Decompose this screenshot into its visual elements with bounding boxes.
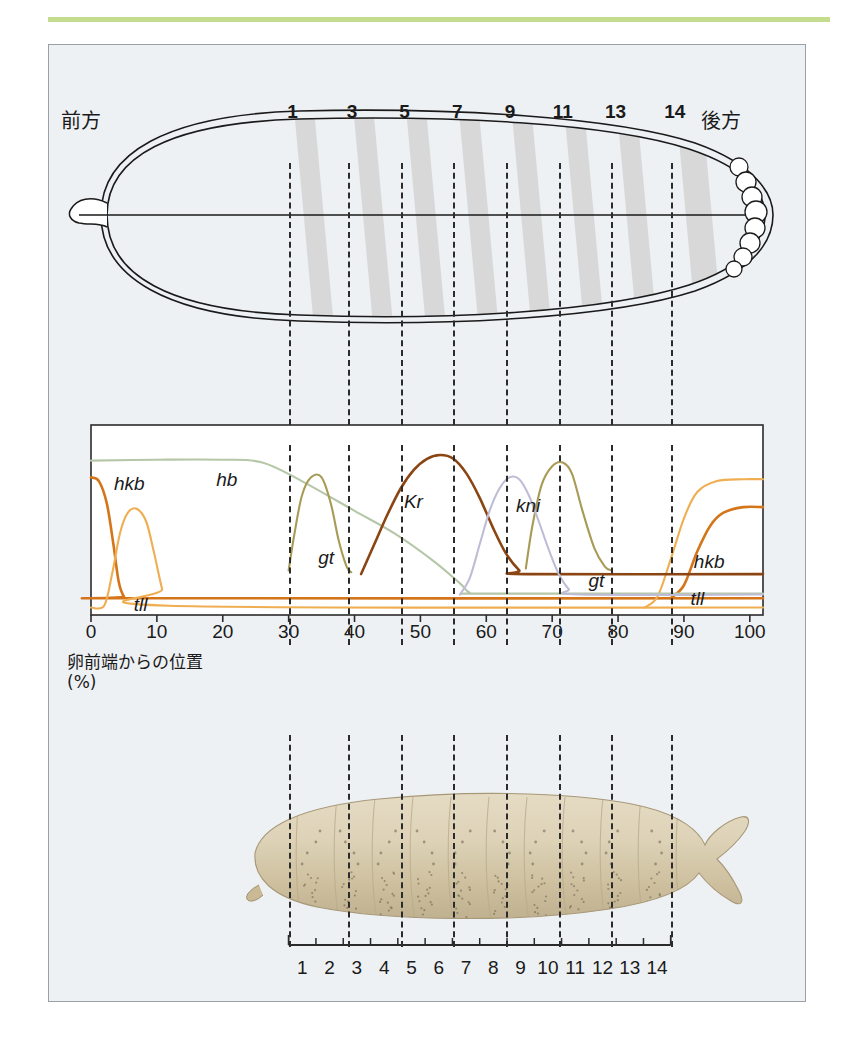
posterior-label: 後方 xyxy=(701,105,741,134)
registration-line xyxy=(559,163,561,425)
embryo-svg xyxy=(49,45,807,395)
segment-number: 5 xyxy=(406,957,417,979)
segment-number: 10 xyxy=(537,957,558,979)
registration-line xyxy=(671,445,673,645)
registration-line xyxy=(289,445,291,645)
registration-line xyxy=(671,735,673,947)
larva-panel: 1234567891011121314 xyxy=(49,735,807,1003)
anterior-label: 前方 xyxy=(61,105,101,134)
x-axis-caption-line2: (%) xyxy=(67,673,203,693)
gene-label-hb: hb xyxy=(216,469,237,491)
registration-line xyxy=(289,163,291,425)
parasegment-number: 11 xyxy=(553,101,573,123)
x-tick-label: 100 xyxy=(734,621,766,643)
registration-line xyxy=(506,163,508,425)
larva-photograph xyxy=(49,735,807,1003)
parasegment-number: 7 xyxy=(452,101,463,123)
x-tick-label: 10 xyxy=(146,621,167,643)
x-tick-label: 90 xyxy=(673,621,694,643)
registration-line xyxy=(348,735,350,947)
registration-line xyxy=(611,735,613,947)
gene-label-gt: gt xyxy=(318,547,334,569)
x-axis-caption-line1: 卵前端からの位置 xyxy=(67,653,203,673)
registration-line xyxy=(401,735,403,947)
registration-line xyxy=(453,445,455,645)
segment-number: 1 xyxy=(297,957,308,979)
segment-number: 7 xyxy=(461,957,472,979)
segment-number: 2 xyxy=(324,957,335,979)
segment-number: 6 xyxy=(433,957,444,979)
gene-label-tll: tll xyxy=(691,588,705,610)
parasegment-number: 14 xyxy=(664,101,685,123)
registration-line xyxy=(559,445,561,645)
x-axis-caption: 卵前端からの位置 (%) xyxy=(67,653,203,692)
accent-rule xyxy=(48,17,830,22)
parasegment-number: 13 xyxy=(605,101,626,123)
registration-line xyxy=(671,163,673,425)
gene-label-hkb: hkb xyxy=(694,551,725,573)
registration-line xyxy=(348,163,350,425)
pole-cells-group xyxy=(726,158,767,277)
segment-number: 3 xyxy=(352,957,363,979)
gene-label-tll: tll xyxy=(134,594,148,616)
registration-line xyxy=(611,445,613,645)
gene-expression-chart-panel: 0102030405060708090100 hkbhkbtlltllhbgtg… xyxy=(49,415,807,715)
parasegment-number: 3 xyxy=(347,101,358,123)
x-tick-label: 20 xyxy=(212,621,233,643)
registration-line xyxy=(348,445,350,645)
segment-number: 9 xyxy=(515,957,526,979)
segment-number: 12 xyxy=(592,957,613,979)
registration-line xyxy=(506,735,508,947)
parasegment-number: 9 xyxy=(505,101,516,123)
segment-number: 4 xyxy=(379,957,390,979)
registration-line xyxy=(453,163,455,425)
micropyle-icon xyxy=(69,199,107,227)
x-tick-label: 60 xyxy=(476,621,497,643)
parasegment-number: 5 xyxy=(399,101,410,123)
gene-label-Kr: Kr xyxy=(404,491,423,513)
registration-line xyxy=(401,445,403,645)
gene-label-kni: kni xyxy=(516,495,540,517)
parasegment-number: 1 xyxy=(287,101,298,123)
figure-frame: 前方 後方 13579111314 xyxy=(48,44,806,1002)
segment-number: 13 xyxy=(619,957,640,979)
segment-number: 14 xyxy=(647,957,668,979)
x-tick-label: 50 xyxy=(410,621,431,643)
segment-number: 11 xyxy=(565,957,585,979)
registration-line xyxy=(289,735,291,947)
registration-line xyxy=(506,445,508,645)
gene-label-gt: gt xyxy=(588,570,604,592)
x-tick-label: 0 xyxy=(86,621,97,643)
mouth-hooks-icon xyxy=(247,885,263,901)
registration-line xyxy=(453,735,455,947)
registration-line xyxy=(401,163,403,425)
registration-line xyxy=(611,163,613,425)
segment-number: 8 xyxy=(488,957,499,979)
registration-line xyxy=(559,735,561,947)
gene-label-hkb: hkb xyxy=(114,473,145,495)
embryo-diagram-panel: 前方 後方 13579111314 xyxy=(49,45,807,395)
